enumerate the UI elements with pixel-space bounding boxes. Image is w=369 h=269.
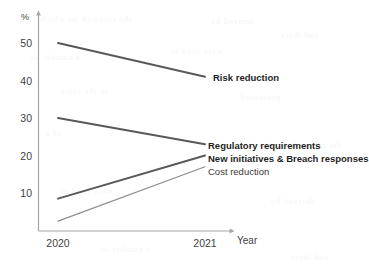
y-tick-label-30: 30 — [10, 113, 32, 124]
y-tick-label-20: 20 — [10, 151, 32, 162]
series-line-new-initiatives — [58, 156, 205, 199]
x-axis-title: Year — [237, 236, 257, 246]
y-tick-label-50: 50 — [10, 38, 32, 49]
x-axis — [39, 229, 235, 234]
x-tick-label-2021: 2021 — [185, 238, 225, 249]
series-line-regulatory-requirements — [58, 118, 205, 144]
y-axis-unit-label: % — [21, 13, 29, 22]
series-line-risk-reduction — [58, 43, 205, 77]
x-tick-label-2020: 2020 — [38, 238, 78, 249]
series-label-new-initiatives: New initiatives & Breach responses — [208, 154, 369, 164]
series-label-risk-reduction: Risk reduction — [213, 73, 279, 83]
y-axis — [36, 11, 41, 232]
y-tick-label-40: 40 — [10, 76, 32, 87]
series-label-regulatory-requirements: Regulatory requirements — [208, 141, 320, 151]
series-label-cost-reduction: Cost reduction — [208, 167, 269, 177]
y-tick-label-10: 10 — [10, 188, 32, 199]
series-line-cost-reduction — [58, 167, 205, 221]
